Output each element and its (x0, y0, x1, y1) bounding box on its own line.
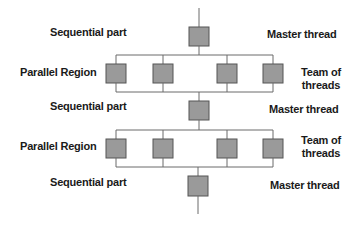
label-master-thread-3: Master thread (270, 179, 340, 192)
team-thread-box (153, 64, 173, 83)
team-thread-box (217, 139, 237, 158)
team-thread-box (153, 139, 173, 158)
master-thread-box-2 (189, 101, 209, 120)
team-thread-box (263, 139, 283, 158)
label-master-thread-1: Master thread (267, 28, 337, 41)
team-label-line1: Team of (298, 66, 344, 79)
label-parallel-region-2: Parallel Region (20, 140, 96, 153)
master-thread-box-3 (188, 176, 208, 196)
label-sequential-part-1: Sequential part (50, 26, 126, 39)
label-sequential-part-2: Sequential part (50, 100, 126, 113)
label-sequential-part-3: Sequential part (50, 176, 126, 189)
team-thread-box (217, 64, 237, 83)
team-label-line2: threads (298, 147, 344, 160)
label-team-of-threads-2: Team of threads (298, 134, 344, 160)
team-thread-box (263, 64, 283, 83)
label-team-of-threads-1: Team of threads (298, 66, 344, 92)
team-thread-box (106, 64, 126, 83)
label-parallel-region-1: Parallel Region (20, 66, 96, 79)
team-thread-box (106, 139, 126, 158)
label-master-thread-2: Master thread (269, 103, 339, 116)
master-thread-box-1 (189, 27, 209, 46)
team-label-line1: Team of (298, 134, 344, 147)
team-label-line2: threads (298, 79, 344, 92)
